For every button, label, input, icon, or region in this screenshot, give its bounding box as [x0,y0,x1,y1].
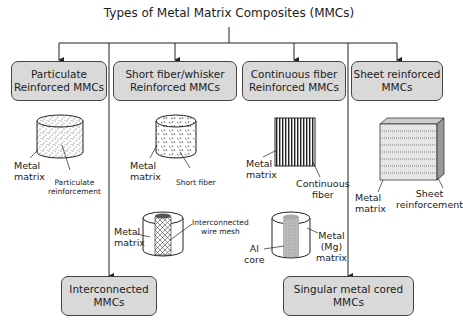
label-al-core: Al core [244,243,265,265]
box-short-fiber-mmcs: Short fiber/whisker Reinforced MMCs [113,61,237,101]
label-particulate-matrix: Metal matrix [14,160,45,182]
label-wire-mesh: Interconnected wire mesh [192,218,249,236]
label-interconnected-matrix: Metal matrix [114,226,145,248]
label-particulate-reinforcement: Particulate reinforcement [48,178,101,196]
label-continuous-fiber: Continuous fiber [296,178,350,200]
box-singular-cored-mmcs: Singular metal cored MMCs [283,276,414,316]
box-interconnected-mmcs: Interconnected MMCs [61,276,157,316]
label-short-fiber-matrix: Metal matrix [130,160,161,182]
label-sheet-matrix: Metal matrix [355,192,386,214]
sheet-block-icon [378,118,444,192]
label-mg-matrix: Metal (Mg) matrix [316,230,347,263]
label-sheet-reinforcement: Sheet reinforcement [396,188,463,210]
box-particulate-mmcs: Particulate Reinforced MMCs [11,61,107,101]
box-sheet-mmcs: Sheet reinforced MMCs [351,61,443,101]
label-continuous-matrix: Metal matrix [246,158,277,180]
label-short-fiber: Short fiber [176,178,216,187]
wire-mesh-cylinder-icon [137,212,192,256]
metal-cored-cylinder-icon [264,212,318,258]
box-continuous-fiber-mmcs: Continuous fiber Reinforced MMCs [242,61,346,101]
